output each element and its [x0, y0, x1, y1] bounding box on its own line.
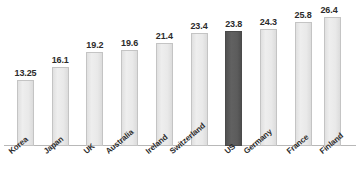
x-label-australia: Australia — [104, 128, 135, 156]
x-label-ireland: Ireland — [144, 133, 169, 156]
x-label-france: France — [285, 133, 310, 156]
x-label-us: US — [223, 142, 237, 156]
x-label-germany: Germany — [242, 127, 274, 156]
x-label-switzerland: Switzerland — [168, 121, 207, 156]
x-label-japan: Japan — [42, 134, 65, 155]
x-label-korea: Korea — [7, 135, 30, 156]
x-axis-category-labels: Korea Japan UK Australia Ireland Switzer… — [0, 0, 361, 189]
bar-chart: 13.25 16.1 19.2 19.6 21.4 23.4 23.8 — [0, 0, 361, 189]
x-label-finland: Finland — [318, 131, 345, 156]
x-label-uk: UK — [82, 142, 96, 156]
